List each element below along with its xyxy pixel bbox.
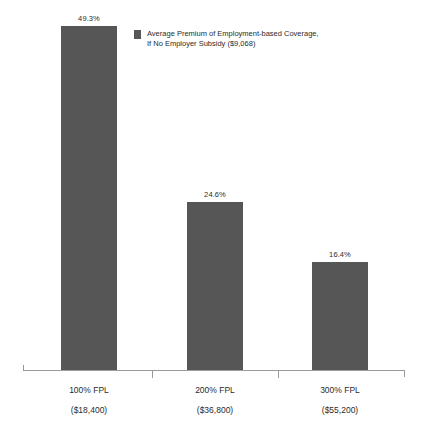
x-axis-label-secondary: ($18,400) (29, 405, 149, 415)
x-axis-label-300-fpl: 300% FPL ($55,200) (280, 385, 400, 415)
x-axis-left-cap (23, 365, 24, 371)
bar-value-label: 49.3% (39, 14, 139, 23)
x-axis-label-100-fpl: 100% FPL ($18,400) (29, 385, 149, 415)
x-axis-tick-2 (278, 371, 279, 378)
x-axis-line (23, 370, 405, 371)
x-axis-label-primary: 300% FPL (280, 385, 400, 395)
x-axis-label-primary: 100% FPL (29, 385, 149, 395)
x-axis-label-secondary: ($55,200) (280, 405, 400, 415)
x-axis-label-primary: 200% FPL (155, 385, 275, 395)
plot-area: 49.3% 24.6% 16.4% (23, 10, 405, 370)
bar-chart: Average Premium of Employment-based Cove… (0, 0, 428, 433)
x-axis-label-secondary: ($36,800) (155, 405, 275, 415)
bar-300-fpl (312, 262, 368, 370)
bar-100-fpl (61, 26, 117, 370)
bar-value-label: 24.6% (165, 190, 265, 199)
x-axis-tick-1 (152, 371, 153, 378)
bar-value-label: 16.4% (290, 250, 390, 259)
x-axis-right-cap (404, 371, 405, 377)
x-axis-label-200-fpl: 200% FPL ($36,800) (155, 385, 275, 415)
bar-200-fpl (187, 202, 243, 370)
